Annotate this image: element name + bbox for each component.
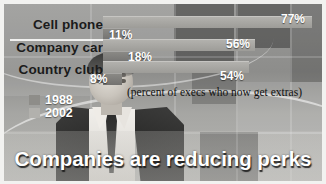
photo-background: Cell phone 11% 77% Company car 18% 56% C… — [4, 4, 322, 181]
row-label-cell-phone: Cell phone — [33, 17, 103, 32]
value-company-car-2002: 56% — [226, 37, 250, 51]
row-label-company-car: Company car — [16, 40, 103, 55]
headline-title: Companies are reducing perks — [4, 147, 322, 171]
chart-note: (percent of execs who now get extras) — [127, 86, 302, 98]
chart-overlay: Cell phone 11% 77% Company car 18% 56% C… — [4, 4, 322, 181]
legend-label-1988: 1988 — [45, 93, 73, 107]
value-cell-phone-2002: 77% — [281, 12, 305, 26]
infographic-frame: Cell phone 11% 77% Company car 18% 56% C… — [0, 0, 326, 184]
value-country-club-2002: 54% — [220, 69, 244, 83]
legend-swatch-1988 — [29, 95, 40, 105]
value-country-club-1988: 8% — [90, 72, 107, 86]
legend-swatch-2002 — [29, 108, 40, 118]
legend-label-2002: 2002 — [45, 106, 73, 120]
